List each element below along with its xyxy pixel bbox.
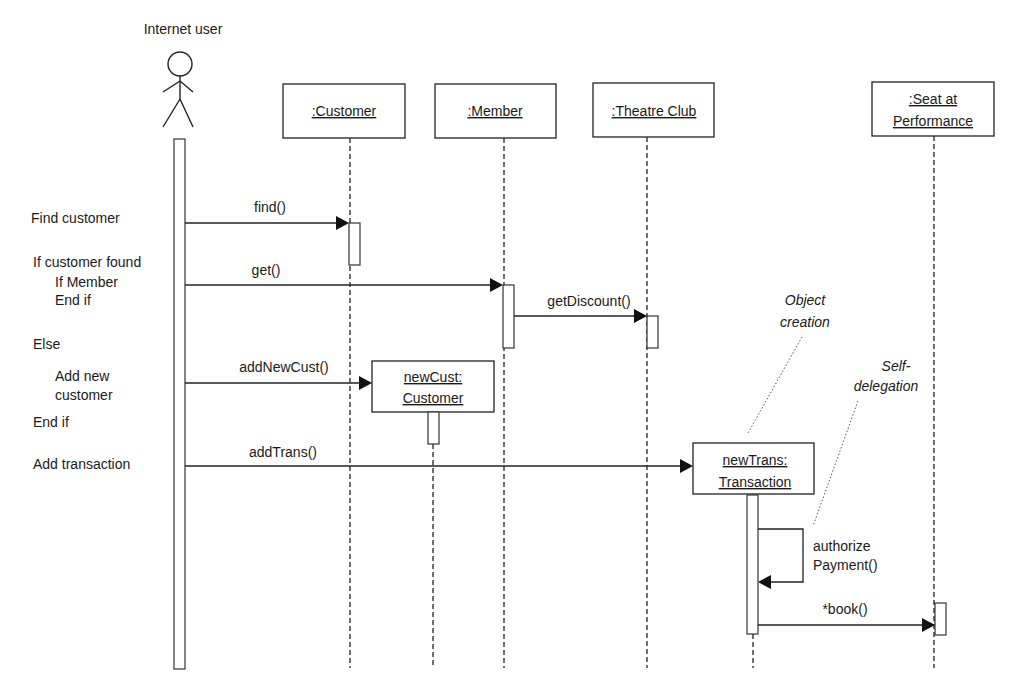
lifeline-theatre-club: :Theatre Club — [593, 83, 714, 668]
script-line: Add transaction — [33, 456, 130, 472]
message-find: find() — [185, 199, 349, 230]
stick-figure-icon — [163, 52, 193, 127]
lifeline-seat-at-performance: :Seat at Performance — [872, 82, 994, 668]
arrowhead-icon — [359, 376, 372, 390]
object-label-new-trans-line2: Transaction — [719, 474, 792, 490]
sequence-diagram: Internet user :Customer :Member :Theatre… — [0, 0, 1021, 690]
arrowhead-icon — [680, 459, 693, 473]
script-line: Add new — [55, 368, 110, 384]
arrowhead-icon — [490, 278, 503, 292]
note-self-delegation: Self- delegation — [813, 358, 919, 526]
script-line: End if — [55, 292, 91, 308]
object-new-trans: newTrans: Transaction — [693, 443, 814, 668]
message-label-book: *book() — [822, 601, 867, 617]
lifeline-label-seat-line2: Performance — [893, 113, 973, 129]
note-connector — [813, 401, 858, 526]
activation-member-get — [503, 285, 514, 348]
message-add-new-cust: addNewCust() — [185, 359, 372, 390]
message-label-find: find() — [254, 199, 286, 215]
object-label-new-trans-line1: newTrans: — [723, 452, 788, 468]
script-line: If customer found — [33, 254, 141, 270]
message-label-get-discount: getDiscount() — [547, 293, 630, 309]
lifeline-label-theatre-club: :Theatre Club — [612, 103, 697, 119]
message-label-authorize-line1: authorize — [813, 538, 871, 554]
arrowhead-icon — [922, 618, 935, 632]
message-label-add-trans: addTrans() — [249, 444, 317, 460]
note-connector — [748, 337, 802, 433]
arrowhead-icon — [758, 575, 771, 589]
message-label-get: get() — [252, 262, 281, 278]
script-line: Else — [33, 336, 60, 352]
script-line: Find customer — [31, 210, 120, 226]
message-add-trans: addTrans() — [185, 444, 693, 473]
activation-theatre-club — [647, 316, 658, 348]
script-annotations: Find customer If customer found If Membe… — [31, 210, 141, 472]
object-label-new-cust-line1: newCust: — [404, 369, 462, 385]
activation-new-trans — [747, 495, 758, 634]
lifeline-label-seat-line1: :Seat at — [909, 91, 957, 107]
lifeline-label-member: :Member — [467, 103, 523, 119]
object-label-new-cust-line2: Customer — [403, 390, 464, 406]
activation-seat-book — [935, 603, 946, 635]
lifeline-label-customer: :Customer — [312, 103, 377, 119]
arrowhead-icon — [634, 309, 647, 323]
actor-label: Internet user — [144, 21, 223, 37]
note-object-creation-line1: Object — [785, 292, 827, 308]
note-self-delegation-line2: delegation — [854, 378, 919, 394]
message-label-add-new-cust: addNewCust() — [239, 359, 328, 375]
message-authorize-payment: authorize Payment() — [758, 529, 878, 589]
message-get: get() — [185, 262, 503, 292]
actor-activation-bar — [174, 139, 185, 669]
note-object-creation: Object creation — [748, 292, 830, 433]
message-book: *book() — [758, 601, 935, 632]
message-get-discount: getDiscount() — [514, 293, 647, 323]
activation-new-cust — [428, 412, 439, 444]
note-self-delegation-line1: Self- — [882, 358, 911, 374]
arrowhead-icon — [336, 216, 349, 230]
script-line: If Member — [55, 274, 118, 290]
script-line: End if — [33, 414, 69, 430]
object-new-cust: newCust: Customer — [372, 361, 494, 668]
note-object-creation-line2: creation — [780, 314, 830, 330]
actor-internet-user: Internet user — [144, 21, 223, 669]
activation-customer-find — [349, 223, 360, 265]
message-label-authorize-line2: Payment() — [813, 557, 878, 573]
script-line: customer — [55, 387, 113, 403]
